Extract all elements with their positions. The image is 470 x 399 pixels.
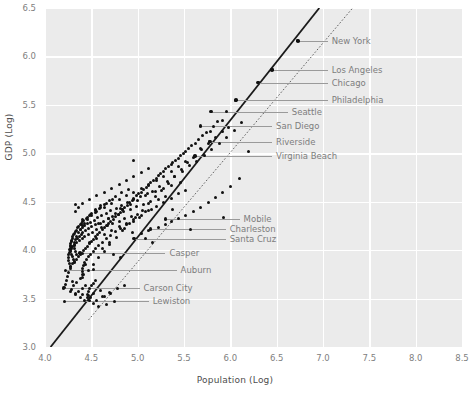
- data-point: [181, 170, 184, 173]
- annotation-leader-line: [195, 156, 272, 157]
- x-tick-label: 6.5: [262, 353, 292, 363]
- annotation-leader-line: [211, 112, 288, 113]
- data-point: [64, 283, 67, 286]
- data-point: [77, 206, 80, 209]
- x-tick-label: 8.5: [447, 353, 470, 363]
- data-point: [170, 220, 173, 223]
- y-tick-label: 6.5: [10, 3, 36, 13]
- data-point: [86, 218, 89, 221]
- x-tick-label: 7.0: [308, 353, 338, 363]
- data-point: [113, 300, 116, 303]
- data-point: [105, 237, 108, 240]
- data-point: [157, 198, 160, 201]
- data-point: [107, 217, 110, 220]
- x-tick-label: 4.0: [30, 353, 60, 363]
- data-point: [92, 268, 95, 271]
- data-point: [115, 236, 118, 239]
- data-point: [92, 292, 95, 295]
- data-point: [69, 290, 72, 293]
- data-point: [103, 191, 106, 194]
- x-tick-label: 5.5: [169, 353, 199, 363]
- data-point: [105, 303, 108, 306]
- trend-lines: [45, 8, 462, 347]
- data-point: [132, 159, 135, 162]
- y-tick-label: 5.5: [10, 100, 36, 110]
- data-point: [89, 296, 92, 299]
- data-point: [87, 269, 90, 272]
- data-point: [151, 241, 154, 244]
- data-point: [140, 191, 143, 194]
- data-point: [110, 187, 113, 190]
- data-point: [117, 213, 120, 216]
- data-point: [144, 237, 147, 240]
- data-point: [103, 206, 106, 209]
- data-point: [112, 253, 115, 256]
- data-point: [103, 250, 106, 253]
- identity-line: [89, 8, 353, 320]
- data-point: [154, 190, 157, 193]
- data-point: [166, 180, 169, 183]
- annotated-data-point: [132, 237, 136, 241]
- data-point: [81, 202, 84, 205]
- annotated-data-point: [234, 98, 238, 102]
- data-point: [74, 210, 77, 213]
- data-point: [142, 203, 145, 206]
- data-point: [155, 205, 158, 208]
- data-point: [194, 142, 197, 145]
- data-point: [67, 271, 70, 274]
- annotation-label: Mobile: [244, 214, 272, 224]
- data-point: [88, 241, 91, 244]
- data-point: [127, 188, 130, 191]
- annotation-label: Los Angeles: [332, 65, 383, 75]
- data-point: [144, 210, 147, 213]
- data-point: [207, 201, 210, 204]
- data-point: [131, 231, 134, 234]
- data-point: [129, 208, 132, 211]
- data-point: [177, 157, 180, 160]
- plot-area: [45, 8, 462, 347]
- x-tick-label: 7.5: [354, 353, 384, 363]
- y-tick-label: 3.0: [10, 342, 36, 352]
- data-point: [190, 144, 193, 147]
- annotation-leader-line: [134, 239, 226, 240]
- data-point: [89, 221, 92, 224]
- data-point: [177, 217, 180, 220]
- data-point: [99, 222, 102, 225]
- data-point: [145, 186, 148, 189]
- data-point: [162, 187, 165, 190]
- annotation-label: Riverside: [276, 137, 315, 147]
- x-tick-label: 6.0: [215, 353, 245, 363]
- data-point: [81, 276, 84, 279]
- data-point: [212, 125, 215, 128]
- y-axis-title: GDP (Log): [4, 130, 14, 144]
- data-point: [103, 295, 106, 298]
- y-tick-label: 4.0: [10, 245, 36, 255]
- data-point: [81, 218, 84, 221]
- annotation-label: Casper: [169, 248, 199, 258]
- annotation-label: Charleston: [230, 224, 276, 234]
- annotation-leader-line: [298, 41, 328, 42]
- annotated-data-point: [149, 227, 153, 231]
- data-point: [151, 190, 154, 193]
- data-point: [227, 126, 230, 129]
- data-point: [118, 183, 121, 186]
- data-point: [88, 214, 91, 217]
- data-point: [88, 299, 91, 302]
- annotation-label: Auburn: [181, 265, 212, 275]
- annotation-label: New York: [332, 36, 371, 46]
- data-point: [218, 142, 221, 145]
- data-point: [79, 296, 82, 299]
- x-tick-label: 8.0: [401, 353, 431, 363]
- annotated-data-point: [296, 39, 300, 43]
- data-point: [192, 210, 195, 213]
- annotated-data-point: [270, 68, 274, 72]
- data-point: [92, 263, 95, 266]
- data-point: [229, 185, 232, 188]
- data-point: [123, 217, 126, 220]
- data-point: [150, 208, 153, 211]
- x-tick-label: 4.5: [76, 353, 106, 363]
- data-point: [216, 120, 219, 123]
- data-point: [75, 281, 78, 284]
- data-point: [170, 170, 173, 173]
- data-point: [140, 187, 143, 190]
